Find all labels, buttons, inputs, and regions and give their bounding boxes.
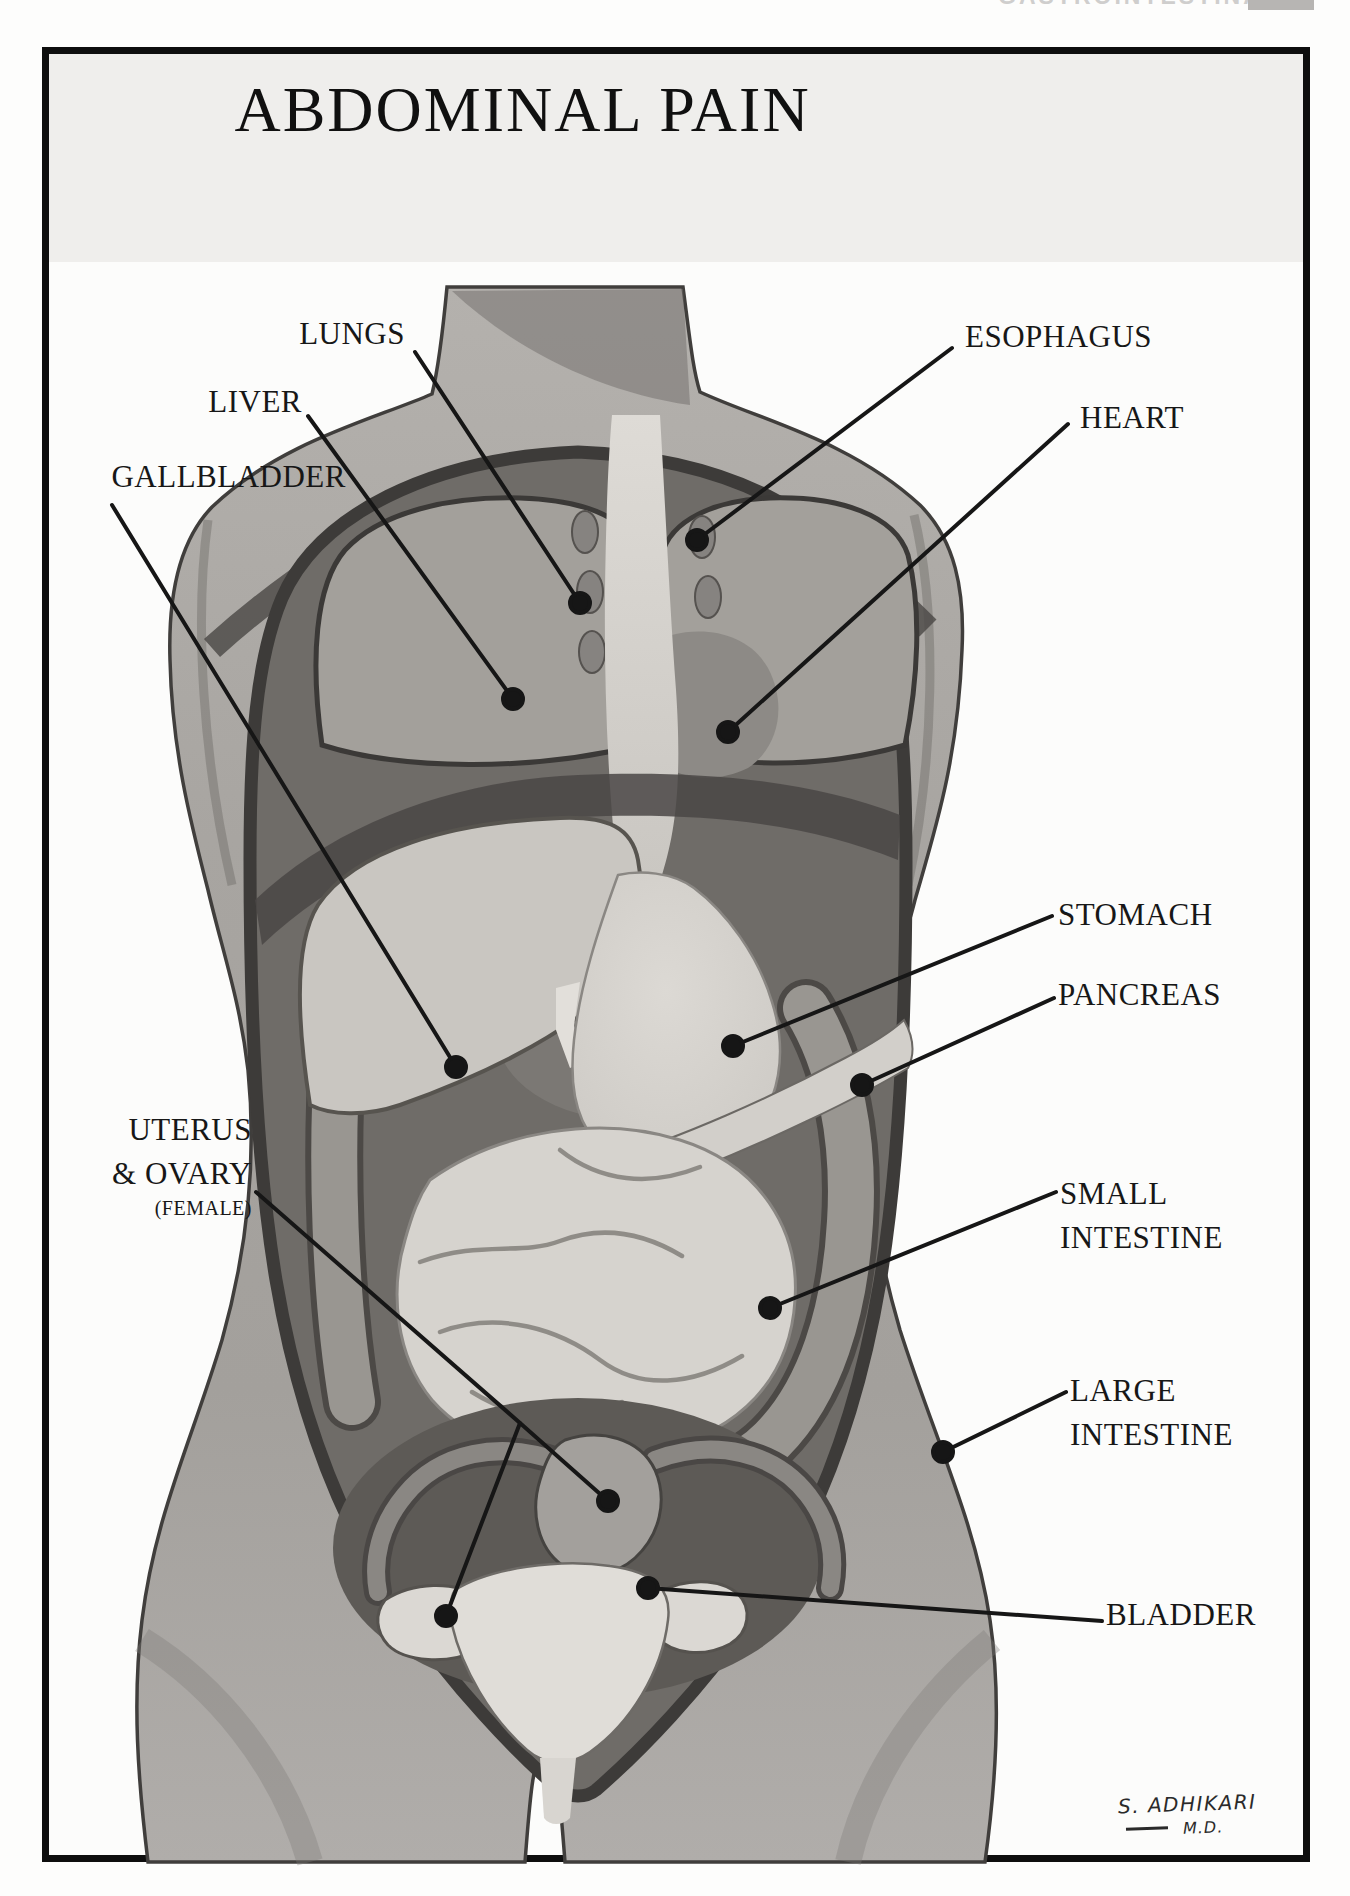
label-large-intestine: LARGE INTESTINE — [1070, 1369, 1233, 1457]
label-small-intestine-line1: SMALL — [1060, 1172, 1223, 1216]
label-large-intestine-line2: INTESTINE — [1070, 1413, 1233, 1457]
label-uterus-sub: (FEMALE) — [60, 1198, 252, 1218]
label-uterus-line2: & OVARY — [60, 1158, 252, 1189]
label-heart: HEART — [1080, 402, 1184, 433]
book-page: GASTROINTESTINAL ABDOMINAL PAIN — [0, 0, 1350, 1896]
artist-credential: M.D. — [1183, 1817, 1224, 1837]
label-uterus-line1: UTERUS — [60, 1114, 252, 1145]
label-uterus-ovary: UTERUS & OVARY (FEMALE) — [60, 1114, 252, 1218]
label-small-intestine: SMALL INTESTINE — [1060, 1172, 1223, 1260]
label-liver: LIVER — [150, 386, 302, 417]
label-small-intestine-line2: INTESTINE — [1060, 1216, 1223, 1260]
label-lungs: LUNGS — [240, 318, 405, 349]
label-gallbladder: GALLBLADDER — [60, 461, 346, 492]
label-bladder: BLADDER — [1106, 1599, 1256, 1630]
label-large-intestine-line1: LARGE — [1070, 1369, 1233, 1413]
artist-signature: S. ADHIKARI — [1118, 1790, 1257, 1819]
label-stomach: STOMACH — [1058, 899, 1213, 930]
label-esophagus: ESOPHAGUS — [965, 321, 1152, 352]
label-pancreas: PANCREAS — [1058, 979, 1221, 1010]
